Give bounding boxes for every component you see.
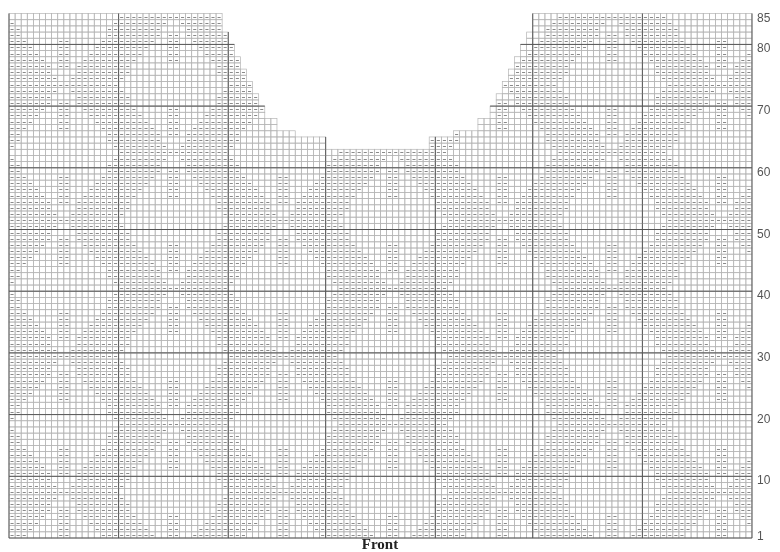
row-label-30: 30 [757,351,770,363]
row-label-10: 10 [757,474,770,486]
row-label-50: 50 [757,228,770,240]
row-label-60: 60 [757,166,770,178]
row-label-40: 40 [757,289,770,301]
row-label-70: 70 [757,104,770,116]
row-label-85: 85 [757,12,770,24]
row-label-80: 80 [757,42,770,54]
row-label-20: 20 [757,413,770,425]
chart-caption: Front [0,537,760,552]
